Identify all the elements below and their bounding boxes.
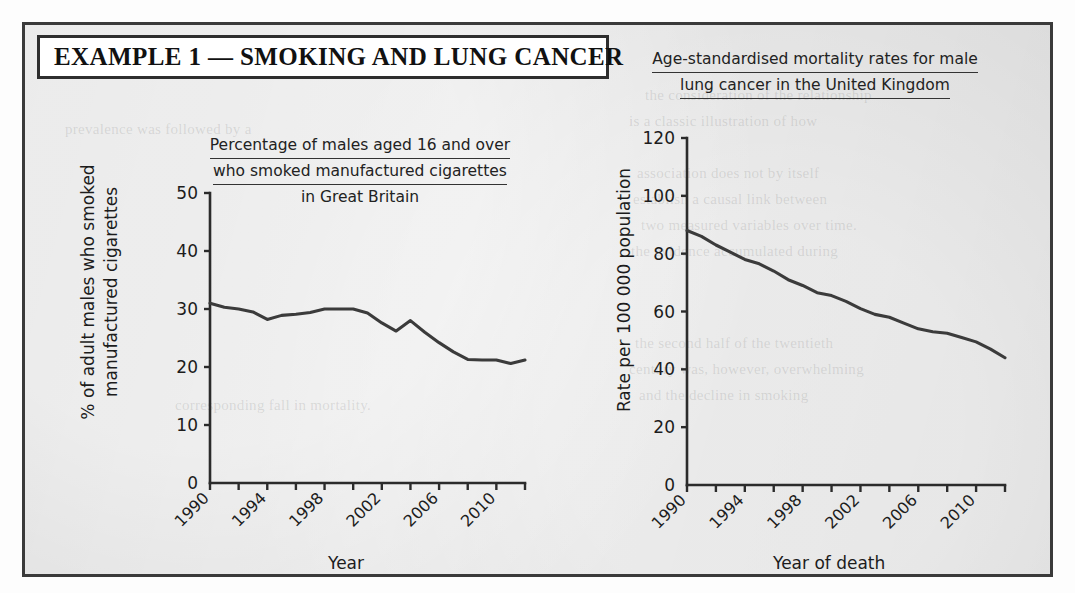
x-tick-label: 1994 (705, 490, 747, 532)
figure-mortality-plot: 020406080100120199019941998200220062010 (585, 25, 1056, 580)
x-tick-label: 2002 (821, 490, 863, 532)
x-tick-label: 2002 (342, 488, 384, 530)
y-tick-label: 60 (653, 302, 675, 322)
example-panel: the consideration of the relationship is… (22, 22, 1053, 577)
x-tick-label: 2010 (937, 490, 979, 532)
data-series-line (687, 231, 1005, 358)
y-tick-label: 0 (664, 475, 675, 495)
scanned-page: the consideration of the relationship is… (0, 0, 1075, 593)
x-tick-label: 1990 (171, 488, 213, 530)
data-series-line (210, 303, 525, 363)
y-tick-label: 120 (643, 128, 675, 148)
y-tick-label: 80 (653, 244, 675, 264)
figure-smoking-plot: 01020304050199019941998200220062010 (25, 25, 605, 580)
y-tick-label: 40 (176, 241, 198, 261)
x-tick-label: 2010 (457, 488, 499, 530)
figure-mortality: Age-standardised mortality rates for mal… (585, 25, 1056, 580)
y-tick-label: 40 (653, 359, 675, 379)
y-tick-label: 20 (176, 357, 198, 377)
x-tick-label: 2006 (400, 488, 442, 530)
y-tick-label: 100 (643, 186, 675, 206)
x-tick-label: 2006 (879, 490, 921, 532)
y-tick-label: 50 (176, 183, 198, 203)
x-tick-label: 1990 (648, 490, 690, 532)
x-tick-label: 1998 (285, 488, 327, 530)
x-tick-label: 1998 (763, 490, 805, 532)
x-tick-label: 1994 (228, 488, 270, 530)
y-tick-label: 10 (176, 415, 198, 435)
y-tick-label: 0 (187, 473, 198, 493)
y-tick-label: 30 (176, 299, 198, 319)
y-tick-label: 20 (653, 417, 675, 437)
figure-smoking: Percentage of males aged 16 and over who… (25, 25, 605, 580)
